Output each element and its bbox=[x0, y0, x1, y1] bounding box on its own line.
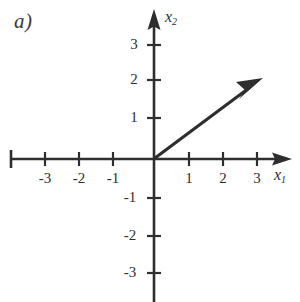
x-tick-label-neg2: -2 bbox=[67, 170, 91, 187]
panel-label: a) bbox=[14, 9, 33, 34]
x-tick-label-2: 2 bbox=[214, 170, 232, 187]
x-tick-label-3: 3 bbox=[248, 170, 266, 187]
y-axis-label: x2 bbox=[165, 8, 177, 26]
x-tick-label-neg3: -3 bbox=[33, 170, 57, 187]
y-tick-label-neg1: -1 bbox=[118, 189, 142, 206]
x-axis-label: x1 bbox=[274, 166, 286, 184]
x-axis-label-subscript: 1 bbox=[281, 174, 286, 185]
figure-container: a) 3 2 1 -1 -2 -3 -3 -2 -1 1 2 3 x1 x2 bbox=[0, 0, 300, 302]
x-axis-arrowhead-icon bbox=[272, 153, 292, 166]
y-axis-label-subscript: 2 bbox=[172, 16, 177, 27]
y-tick-label-2: 2 bbox=[124, 71, 144, 88]
vector-arrow bbox=[155, 78, 263, 158]
y-tick-label-neg2: -2 bbox=[118, 227, 142, 244]
x-tick-label-neg1: -1 bbox=[101, 170, 125, 187]
axes-plot-svg bbox=[0, 0, 300, 302]
y-tick-label-3: 3 bbox=[124, 36, 144, 53]
x-tick-label-1: 1 bbox=[180, 170, 198, 187]
y-tick-label-1: 1 bbox=[124, 109, 144, 126]
y-tick-label-neg3: -3 bbox=[118, 264, 142, 281]
